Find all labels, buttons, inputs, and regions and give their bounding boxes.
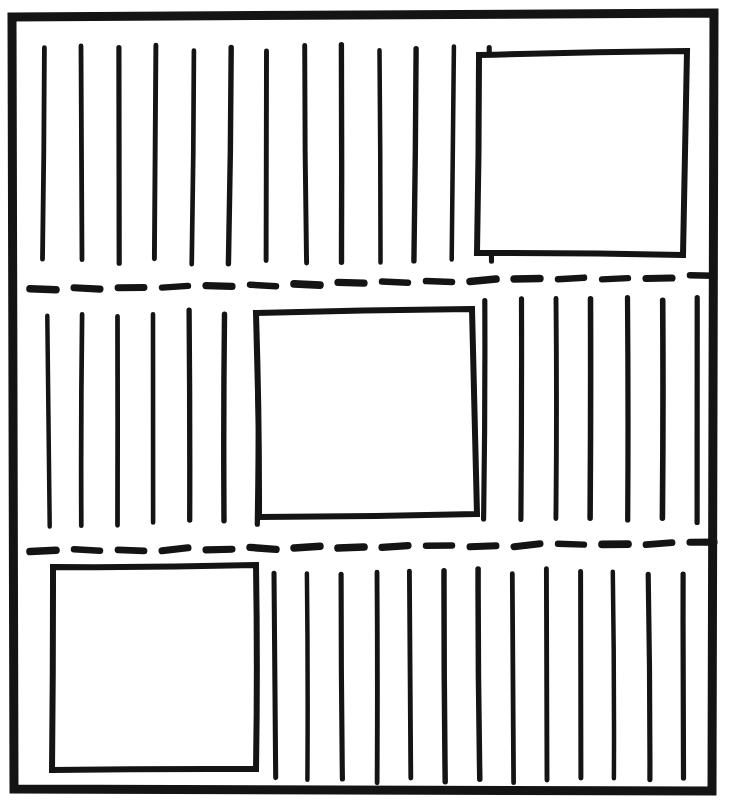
text-line-stroke (81, 314, 82, 525)
text-line-stroke (648, 574, 650, 779)
dash-segment (294, 546, 320, 548)
text-line-stroke (380, 50, 381, 262)
dash-segment (162, 548, 188, 551)
dash-segment (338, 547, 364, 548)
text-line-stroke (43, 48, 45, 259)
dash-segment (514, 278, 540, 279)
text-line-stroke (274, 573, 276, 777)
dash-segment (74, 288, 100, 289)
dash-segment (646, 278, 672, 279)
dash-segment (294, 284, 320, 285)
figure-canvas (0, 0, 732, 811)
text-line-stroke (478, 569, 480, 779)
text-line-stroke (189, 310, 190, 520)
image-box-top-right (477, 51, 687, 255)
text-line-stroke (546, 569, 547, 780)
text-line-stroke (228, 47, 231, 263)
text-line-stroke (224, 314, 225, 521)
dash-segment (382, 282, 408, 283)
image-box-bottom-left (52, 565, 257, 770)
text-line-stroke (452, 47, 454, 260)
dash-segment (558, 278, 584, 280)
dash-segment (646, 543, 672, 545)
dash-segment (250, 547, 276, 549)
image-box-middle-center (256, 309, 477, 517)
text-line-stroke (484, 301, 485, 519)
text-line-stroke (512, 574, 513, 783)
text-line-stroke (47, 316, 49, 527)
text-line-stroke (192, 51, 194, 265)
dash-segment (338, 282, 364, 283)
text-line-stroke (414, 49, 416, 261)
dash-segment (206, 549, 232, 550)
text-line-stroke (628, 298, 629, 520)
text-line-stroke (154, 45, 156, 258)
dash-segment (118, 550, 144, 551)
text-line-stroke (81, 46, 82, 260)
dash-segment (558, 544, 584, 545)
text-line-stroke (590, 299, 591, 519)
text-line-stroke (521, 299, 522, 520)
text-line-stroke (556, 299, 557, 519)
text-line-stroke (409, 571, 410, 778)
dash-segment (470, 546, 496, 547)
text-line-stroke (305, 45, 307, 263)
dash-segment (470, 279, 496, 281)
dash-segment (74, 549, 100, 551)
dash-segment (250, 285, 276, 287)
text-line-stroke (307, 573, 308, 779)
dash-segment (602, 278, 628, 279)
dash-segment (162, 286, 188, 288)
text-line-stroke (341, 574, 342, 779)
hand-drawn-layout-sketch (0, 0, 732, 811)
dash-segment (206, 286, 232, 287)
dash-segment (30, 289, 56, 290)
dash-segment (30, 550, 56, 551)
text-line-stroke (613, 572, 614, 779)
text-line-stroke (444, 571, 445, 782)
dash-segment (382, 546, 408, 548)
dash-segment (514, 544, 540, 547)
dash-segment (426, 281, 452, 282)
text-line-stroke (662, 300, 663, 518)
